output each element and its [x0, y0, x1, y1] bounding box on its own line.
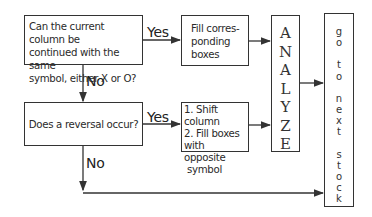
- fill-line-3: boxes: [191, 48, 248, 61]
- analyze-letter: A: [280, 61, 291, 80]
- next-stock-char: c: [336, 182, 342, 193]
- edge-label-yes-1: Yes: [147, 24, 169, 40]
- next-stock-char: t: [337, 126, 341, 137]
- next-stock-char: t: [337, 160, 341, 171]
- next-stock-char: k: [336, 193, 342, 204]
- next-stock-char: o: [336, 71, 342, 82]
- analyze-letter: A: [280, 24, 291, 43]
- analyze-letter: L: [281, 80, 291, 99]
- edge-label-no-2: No: [86, 155, 104, 171]
- edge-label-yes-2: Yes: [147, 109, 169, 125]
- next-stock-char: o: [336, 37, 342, 48]
- fill-line-1: Fill corres-: [191, 22, 248, 35]
- question-reversal-box: Does a reversal occur?: [24, 102, 143, 146]
- analyze-letter: Y: [281, 98, 291, 117]
- question-reversal-text: Does a reversal occur?: [29, 118, 139, 131]
- question-continue-line-2: continued with the same: [29, 46, 142, 72]
- next-stock-char: o: [336, 171, 342, 182]
- go-to-next-stock-box: g o t o n e x t s t o c k: [324, 13, 354, 207]
- next-stock-char: t: [337, 59, 341, 70]
- next-stock-char: e: [336, 104, 342, 115]
- next-stock-char: n: [336, 93, 342, 104]
- fill-corresponding-boxes-box: Fill corres- ponding boxes: [181, 15, 249, 66]
- shift-line-4: symbol: [184, 164, 248, 176]
- question-continue-column-box: Can the current column be continued with…: [24, 15, 143, 65]
- edge-label-no-1: No: [86, 73, 104, 89]
- fill-line-2: ponding: [191, 35, 248, 48]
- analyze-letter: Z: [280, 117, 290, 136]
- analyze-letter: E: [280, 135, 291, 154]
- next-stock-char: x: [336, 115, 342, 126]
- shift-line-1: 1. Shift column: [184, 104, 248, 128]
- analyze-letter: N: [279, 43, 292, 62]
- next-stock-char: s: [336, 149, 341, 160]
- shift-line-3: with opposite: [184, 140, 248, 164]
- shift-line-2: 2. Fill boxes: [184, 128, 248, 140]
- shift-column-box: 1. Shift column 2. Fill boxes with oppos…: [181, 102, 249, 152]
- analyze-box: A N A L Y Z E: [271, 15, 300, 152]
- next-stock-char: g: [336, 26, 342, 37]
- question-continue-line-1: Can the current column be: [29, 20, 142, 46]
